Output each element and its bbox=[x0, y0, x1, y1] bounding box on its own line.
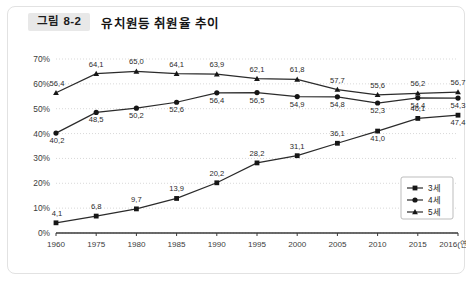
data-point-marker-3세 bbox=[134, 206, 139, 211]
data-point-label: 52,6 bbox=[169, 105, 184, 114]
data-point-label: 13,9 bbox=[169, 184, 184, 193]
data-point-label: 31,1 bbox=[290, 142, 305, 151]
data-point-label: 56,5 bbox=[250, 96, 265, 105]
x-tick-label: 1985 bbox=[168, 240, 187, 249]
figure-title: 유치원등 취원율 추이 bbox=[101, 13, 219, 32]
y-tick-label: 0% bbox=[38, 228, 51, 238]
y-tick-label: 70% bbox=[33, 54, 50, 64]
data-point-marker-4세 bbox=[254, 90, 259, 95]
data-point-label: 47,4 bbox=[451, 118, 466, 127]
x-tick-label: 2010 bbox=[369, 240, 388, 249]
y-tick-label: 10% bbox=[33, 203, 50, 213]
data-point-marker-3세 bbox=[335, 141, 340, 146]
data-point-label: 52,3 bbox=[370, 106, 385, 115]
chart-plot-area: 0%10%20%30%40%50%60%70% 1960197519801985… bbox=[8, 37, 466, 275]
data-point-label: 41,0 bbox=[370, 134, 385, 143]
data-point-label: 4,1 bbox=[52, 209, 63, 218]
chart-legend[interactable]: 3세4세5세 bbox=[401, 177, 453, 219]
legend-marker-4세 bbox=[412, 197, 417, 202]
x-tick-label: 1980 bbox=[127, 240, 146, 249]
data-point-marker-4세 bbox=[375, 100, 380, 105]
data-point-label: 20,2 bbox=[209, 169, 224, 178]
data-point-label: 61,8 bbox=[290, 65, 305, 74]
figure-number-badge: 그림 8-2 bbox=[28, 13, 90, 32]
data-point-label: 36,1 bbox=[330, 129, 345, 138]
data-point-label: 65,0 bbox=[129, 57, 144, 66]
data-point-marker-3세 bbox=[94, 214, 99, 219]
x-tick-label: 1975 bbox=[87, 240, 106, 249]
y-axis-tick-labels: 0%10%20%30%40%50%60%70% bbox=[33, 54, 50, 238]
data-point-marker-3세 bbox=[214, 180, 219, 185]
data-point-marker-4세 bbox=[174, 100, 179, 105]
data-point-marker-4세 bbox=[94, 110, 99, 115]
data-point-label: 54,3 bbox=[451, 101, 466, 110]
x-tick-label: 1960 bbox=[47, 240, 66, 249]
figure-header: 그림 8-2 유치원등 취원율 추이 bbox=[8, 7, 464, 37]
legend-marker-3세 bbox=[413, 186, 418, 191]
data-point-label: 56,2 bbox=[410, 79, 425, 88]
x-tick-label: 2005 bbox=[328, 240, 347, 249]
data-point-label: 54,9 bbox=[290, 100, 305, 109]
figure-card: 그림 8-2 유치원등 취원율 추이 0%10%20%30%40%50%60%7… bbox=[7, 6, 465, 274]
data-point-marker-3세 bbox=[54, 220, 59, 225]
data-point-label: 63,9 bbox=[209, 60, 224, 69]
x-tick-label: 2015 bbox=[409, 240, 428, 249]
data-point-label: 57,7 bbox=[330, 76, 345, 85]
data-point-label: 40,2 bbox=[50, 136, 65, 145]
data-point-marker-3세 bbox=[295, 153, 300, 158]
data-point-marker-4세 bbox=[295, 94, 300, 99]
data-point-marker-3세 bbox=[174, 196, 179, 201]
data-point-marker-4세 bbox=[455, 95, 460, 100]
data-point-label: 28,2 bbox=[250, 149, 265, 158]
data-point-marker-3세 bbox=[456, 113, 461, 118]
data-point-label: 55,6 bbox=[370, 81, 385, 90]
data-point-marker-4세 bbox=[53, 130, 58, 135]
data-point-label: 54,4 bbox=[410, 101, 425, 110]
x-tick-label: 1995 bbox=[248, 240, 267, 249]
y-tick-label: 20% bbox=[33, 178, 50, 188]
x-tick-label: 1990 bbox=[208, 240, 227, 249]
data-point-label: 50,2 bbox=[129, 111, 144, 120]
y-tick-label: 30% bbox=[33, 153, 50, 163]
y-tick-label: 40% bbox=[33, 129, 50, 139]
line-chart-svg: 0%10%20%30%40%50%60%70% 1960197519801985… bbox=[8, 37, 466, 275]
data-point-marker-4세 bbox=[335, 94, 340, 99]
legend-label-4세[interactable]: 4세 bbox=[428, 196, 441, 205]
data-point-label: 56,4 bbox=[50, 79, 65, 88]
data-point-label: 9,7 bbox=[131, 195, 142, 204]
data-point-label: 54,8 bbox=[330, 100, 345, 109]
y-tick-label: 60% bbox=[33, 79, 50, 89]
x-tick-label: 2000 bbox=[288, 240, 307, 249]
data-point-marker-3세 bbox=[255, 161, 260, 166]
legend-label-3세[interactable]: 3세 bbox=[428, 184, 441, 193]
data-point-label: 48,5 bbox=[89, 115, 104, 124]
data-point-marker-4세 bbox=[134, 106, 139, 111]
y-tick-label: 50% bbox=[33, 104, 50, 114]
gridlines-group bbox=[56, 59, 458, 233]
data-point-marker-4세 bbox=[214, 90, 219, 95]
data-point-marker-3세 bbox=[415, 116, 420, 121]
series-line-3세 bbox=[56, 115, 458, 223]
x-axis-tick-labels: 1960197519801985199019952000200520102015… bbox=[47, 240, 466, 249]
data-point-label: 56,4 bbox=[209, 96, 224, 105]
data-point-label: 6,8 bbox=[91, 202, 102, 211]
x-axis-line-group bbox=[56, 233, 458, 236]
data-point-marker-3세 bbox=[375, 129, 380, 134]
series-markers-group bbox=[53, 69, 461, 226]
x-tick-label: 2016(연도) bbox=[439, 240, 466, 249]
data-point-label: 62,1 bbox=[250, 65, 265, 74]
legend-label-5세[interactable]: 5세 bbox=[428, 208, 441, 217]
data-point-marker-4세 bbox=[415, 95, 420, 100]
data-point-label: 64,1 bbox=[89, 60, 104, 69]
data-point-label: 64,1 bbox=[169, 60, 184, 69]
data-point-label: 56,7 bbox=[451, 78, 466, 87]
legend-box bbox=[401, 177, 453, 219]
